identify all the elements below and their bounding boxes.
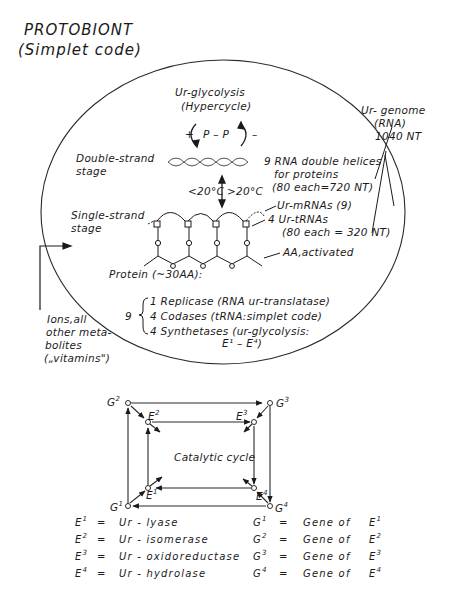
- label-ions-1: Ions,all: [47, 313, 87, 325]
- legend-gene-row: G4=Gene ofE4: [253, 568, 382, 579]
- protein-item-replicase: 1 Replicase (RNA ur-translatase): [150, 295, 330, 307]
- label-temp-high: >20°C: [227, 185, 263, 197]
- node-label-g3: G3: [276, 397, 289, 409]
- label-ions-3: bolites: [45, 339, 82, 351]
- label-ur-mrnas: Ur-mRNAs (9): [277, 199, 352, 211]
- node-label-e1: E1: [146, 489, 158, 501]
- label-protein: Protein (~30AA):: [109, 268, 203, 280]
- subtitle-simplet-code: (Simplet code): [18, 41, 142, 59]
- label-hypercycle: (Hypercycle): [181, 100, 251, 112]
- title-protobiont: PROTOBIONT: [24, 21, 133, 39]
- label-single-strand: Single-strand: [71, 209, 145, 221]
- ions-arrow-icon: [40, 243, 71, 310]
- legend-enzyme-row: E1=Ur - lyase: [75, 517, 179, 528]
- label-protein-count: 9: [125, 310, 132, 322]
- legend-gene-row: G3=Gene ofE3: [253, 551, 382, 562]
- legend-enzyme-row: E3=Ur - oxidoreductase: [75, 551, 240, 562]
- legend-gene-row: G2=Gene ofE2: [253, 534, 382, 545]
- pp-minus: –: [252, 128, 258, 140]
- label-helices-2: for proteins: [274, 168, 338, 180]
- label-catalytic-cycle: Catalytic cycle: [174, 451, 255, 463]
- legend-gene-row: G1=Gene ofE1: [253, 517, 382, 528]
- label-ur-trnas: 4 Ur-tRNAs: [268, 213, 328, 225]
- label-ions-4: („vitamins"): [44, 352, 110, 364]
- label-trnas-count: (80 each = 320 NT): [282, 226, 391, 238]
- label-genome-rna: (RNA): [374, 117, 406, 129]
- protein-item-synthetases: 4 Synthetases (ur-glycolysis:: [150, 325, 310, 337]
- protein-brace: [139, 298, 148, 334]
- genome-leader-lines: [372, 127, 394, 233]
- label-genome-nt: 1040 NT: [375, 130, 421, 142]
- node-label-e4: E4: [256, 490, 268, 502]
- label-ur-genome: Ur- genome: [361, 104, 425, 116]
- label-helices-1: 9 RNA double helices: [264, 155, 381, 167]
- pp-label: P – P: [203, 128, 229, 140]
- node-label-e3: E3: [236, 410, 248, 422]
- double-helix-icon: [168, 158, 248, 166]
- label-ur-glycolysis: Ur-glycolysis: [175, 86, 245, 98]
- label-ions-2: other meta-: [46, 326, 112, 338]
- node-label-e2: E2: [148, 410, 160, 422]
- node-label-g4: G4: [275, 502, 288, 514]
- node-label-g1: G1: [110, 501, 123, 513]
- pp-plus: +: [185, 128, 194, 140]
- label-double-strand-stage: stage: [76, 165, 107, 177]
- node-label-g2: G2: [107, 396, 120, 408]
- label-double-strand: Double-strand: [76, 152, 155, 164]
- label-temp-low: <20°C: [188, 185, 224, 197]
- legend-enzyme-row: E2=Ur - isomerase: [75, 534, 209, 545]
- single-strand-structure-icon: [144, 206, 280, 268]
- legend-enzyme-row: E4=Ur - hydrolase: [75, 568, 206, 579]
- label-helices-3: (80 each=720 NT): [272, 181, 373, 193]
- protein-item-codases: 4 Codases (tRNA:simplet code): [150, 310, 322, 322]
- protein-item-synthetases-cont: E¹ – E⁴): [222, 337, 262, 349]
- label-single-strand-stage: stage: [71, 222, 102, 234]
- label-aa-activated: AA,activated: [283, 246, 354, 258]
